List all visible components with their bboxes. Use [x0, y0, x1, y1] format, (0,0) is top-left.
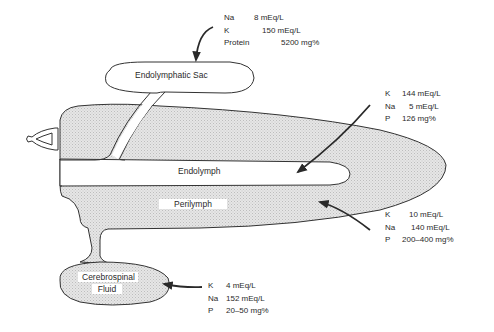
ion-label: K — [224, 25, 262, 38]
arrow-to-endolymphatic-sac — [196, 27, 213, 60]
ion-value: 5200 mg% — [281, 37, 319, 50]
ion-value: 150 mEq/L — [262, 25, 301, 38]
csf-label-line2: Fluid — [92, 284, 122, 294]
endolymph-label: Endolymph — [178, 166, 221, 176]
ion-label: Protein — [224, 37, 281, 50]
ion-label: Na — [208, 293, 226, 306]
ion-value: 200–400 mg% — [402, 234, 454, 247]
endolymph-composition: K144 mEq/L Na5 mEq/L P126 mg% — [385, 88, 441, 126]
ion-label: K — [208, 280, 226, 293]
ion-label: Na — [385, 101, 409, 114]
csf-composition: K4 mEq/L Na152 mEq/L P20–50 mg% — [208, 280, 269, 318]
ion-value: 20–50 mg% — [226, 305, 269, 318]
stapes-icon — [27, 128, 59, 150]
ion-label: K — [385, 88, 402, 101]
ion-label: Na — [385, 222, 411, 235]
ion-label: Na — [224, 12, 254, 25]
endolymphatic-sac-label: Endolymphatic Sac — [135, 70, 208, 80]
ion-value: 10 mEq/L — [409, 209, 443, 222]
ion-label: P — [208, 305, 226, 318]
arrow-to-csf — [164, 284, 202, 287]
csf-label-line1: Cerebrospinal — [78, 272, 138, 282]
ion-value: 140 mEq/L — [411, 222, 450, 235]
ion-value: 5 mEq/L — [409, 101, 439, 114]
ion-value: 152 mEq/L — [226, 293, 265, 306]
ion-value: 144 mEq/L — [402, 88, 441, 101]
endolymphatic-sac-composition: Na8 mEq/L K150 mEq/L Protein5200 mg% — [224, 12, 319, 50]
ion-value: 4 mEq/L — [226, 280, 256, 293]
ion-label: P — [385, 234, 402, 247]
ion-value: 8 mEq/L — [254, 12, 284, 25]
perilymph-composition: K10 mEq/L Na140 mEq/L P200–400 mg% — [385, 209, 454, 247]
perilymph-label: Perilymph — [159, 199, 227, 209]
ion-value: 126 mg% — [402, 113, 436, 126]
ion-label: K — [385, 209, 409, 222]
ion-label: P — [385, 113, 402, 126]
